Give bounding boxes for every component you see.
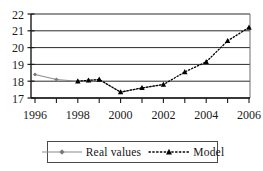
chart-legend: Real values Model xyxy=(47,141,218,163)
y-tick-label: 21 xyxy=(12,24,24,38)
chart-figure: 22 21 20 19 18 17 1996 1998 2000 2002 xyxy=(0,0,263,171)
y-tick-label: 18 xyxy=(12,75,24,89)
y-axis-tick-labels: 22 21 20 19 18 17 xyxy=(12,8,24,106)
x-tick-label: 2000 xyxy=(109,108,133,122)
y-tick-label: 19 xyxy=(12,58,24,72)
y-tick-label: 22 xyxy=(12,8,24,22)
legend-label-real-values: Real values xyxy=(86,146,142,158)
x-tick-label: 2002 xyxy=(151,108,175,122)
legend-line-solid-diamond-icon xyxy=(41,147,83,157)
x-axis-ticks xyxy=(35,98,249,103)
legend-line-dotted-triangle-icon xyxy=(148,147,190,157)
x-tick-label: 2006 xyxy=(237,108,261,122)
y-tick-label: 20 xyxy=(12,41,24,55)
x-tick-label: 2004 xyxy=(194,108,218,122)
x-axis-tick-labels: 1996 1998 2000 2002 2004 2006 xyxy=(23,108,261,122)
legend-entry-real-values[interactable]: Real values xyxy=(41,146,142,158)
legend-label-model: Model xyxy=(193,146,224,158)
y-tick-label: 17 xyxy=(12,92,24,106)
legend-entry-model[interactable]: Model xyxy=(148,146,224,158)
x-tick-label: 1998 xyxy=(66,108,90,122)
x-tick-label: 1996 xyxy=(23,108,47,122)
plot-area-background xyxy=(31,14,250,98)
